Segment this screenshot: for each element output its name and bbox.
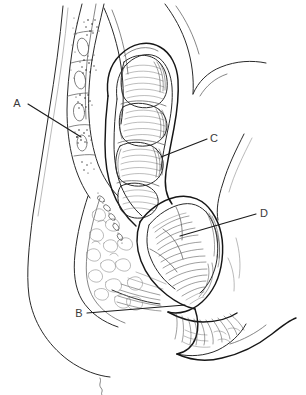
anatomical-figure: A B C D (0, 0, 306, 395)
figure-background (0, 0, 306, 395)
anatomy-illustration: A B C D (0, 0, 306, 395)
label-b: B (75, 307, 83, 319)
label-a: A (13, 97, 21, 109)
label-c: C (210, 132, 218, 144)
label-d: D (260, 207, 268, 219)
